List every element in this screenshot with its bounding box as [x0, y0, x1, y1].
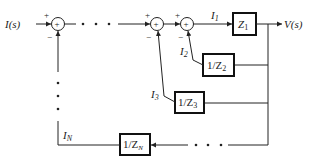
signal-i1: I1: [210, 9, 219, 23]
summing-junction-2: + + −: [145, 10, 164, 42]
block-inv-z3: 1/Z3: [175, 92, 204, 113]
svg-text:+: +: [184, 19, 189, 29]
signal-in: IN: [62, 129, 73, 143]
ellipsis-left: [57, 82, 60, 111]
summing-junction-1: + + −: [44, 10, 65, 42]
block-inv-zn: 1/ZN: [120, 134, 150, 155]
signal-i2: I2: [179, 45, 188, 59]
signal-i3: I3: [150, 88, 159, 102]
svg-text:−: −: [146, 32, 151, 42]
svg-text:+: +: [145, 10, 150, 20]
svg-text:−: −: [178, 32, 183, 42]
feedback-line-i2: [188, 31, 203, 65]
ellipsis-top: [82, 23, 111, 26]
output-label: V(s): [284, 18, 303, 31]
summing-junction-3: + + −: [175, 10, 194, 42]
svg-text:+: +: [175, 10, 180, 20]
svg-text:+: +: [55, 19, 60, 29]
feedback-line-i3: [158, 31, 175, 102]
svg-text:+: +: [44, 10, 49, 20]
block-z1: Z1: [233, 13, 256, 35]
svg-text:+: +: [154, 19, 159, 29]
svg-text:−: −: [47, 32, 52, 42]
input-label: I(s): [4, 18, 21, 31]
ellipsis-bottom: [195, 144, 223, 147]
block-diagram: I(s) + + − + + − + + − I1 Z1 V(s): [0, 0, 317, 165]
block-inv-z2: 1/Z2: [203, 54, 234, 76]
